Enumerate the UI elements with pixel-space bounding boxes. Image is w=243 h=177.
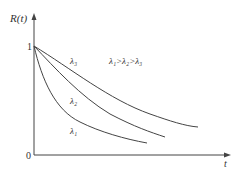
- curve-label-lambda1: λ₁: [69, 126, 77, 136]
- reliability-chart: R(t) t 0 1 λ₃ λ₂ λ₁ λ₁>λ₂>λ₃: [0, 0, 243, 177]
- origin-label: 0: [26, 150, 31, 161]
- curve-label-lambda3: λ₃: [69, 56, 77, 66]
- relation-annotation: λ₁>λ₂>λ₃: [108, 56, 142, 66]
- chart-canvas: R(t) t 0 1 λ₃ λ₂ λ₁ λ₁>λ₂>λ₃: [0, 0, 243, 177]
- y-axis-arrow-icon: [32, 13, 37, 20]
- curve-label-lambda2: λ₂: [69, 96, 77, 106]
- x-axis-label: t: [224, 158, 227, 169]
- curve-lambda2: [34, 46, 165, 137]
- x-axis-arrow-icon: [224, 153, 231, 158]
- y-axis-label: R(t): [9, 12, 27, 25]
- y-tick-1: 1: [27, 41, 32, 52]
